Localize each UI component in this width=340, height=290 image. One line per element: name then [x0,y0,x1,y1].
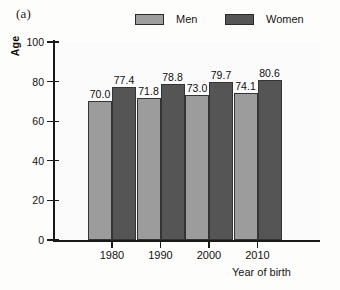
legend-label-men: Men [176,13,197,25]
bar-value-label: 78.8 [152,71,194,83]
legend-item-men: Men [135,11,197,27]
bar-men-2000 [185,95,209,240]
x-axis-title: Year of birth [232,266,291,278]
bar-women-1980 [112,87,136,240]
x-tick-mark [257,241,258,248]
legend-swatch-women-icon [225,14,254,25]
y-tick-label: 60 [8,115,44,127]
y-tick-label: 0 [8,234,44,246]
y-tick-label: 40 [8,155,44,167]
bar-men-2010 [234,93,258,240]
y-tick-mark [47,81,59,82]
x-tick-label: 1980 [86,249,138,261]
legend-item-women: Women [225,11,304,27]
x-tick-label: 2010 [232,249,284,261]
y-axis-line [53,40,55,241]
chart-legend: Men Women [135,11,335,27]
bar-women-2000 [209,82,233,240]
bar-women-2010 [258,80,282,240]
bar-women-1990 [161,84,185,240]
legend-label-women: Women [266,13,304,25]
x-tick-label: 1990 [135,249,187,261]
x-tick-mark [208,241,209,248]
y-tick-label: 20 [8,194,44,206]
legend-swatch-men-icon [135,14,164,25]
bar-men-1990 [137,98,161,240]
y-tick-label: 80 [8,76,44,88]
y-tick-mark [47,160,59,161]
x-tick-label: 2000 [183,249,235,261]
y-tick-mark [47,200,59,201]
x-tick-mark [111,241,112,248]
x-tick-mark [160,241,161,248]
bar-value-label: 80.6 [249,67,291,79]
life-expectancy-bar-chart-figure: (a) Men Women Age 020406080100 198019902… [0,0,340,290]
x-axis-line [53,240,320,242]
y-tick-mark [47,41,59,42]
panel-label: (a) [16,6,31,22]
y-tick-label: 100 [8,36,44,48]
bar-men-1980 [88,101,112,240]
y-tick-mark [47,239,59,240]
y-tick-mark [47,121,59,122]
